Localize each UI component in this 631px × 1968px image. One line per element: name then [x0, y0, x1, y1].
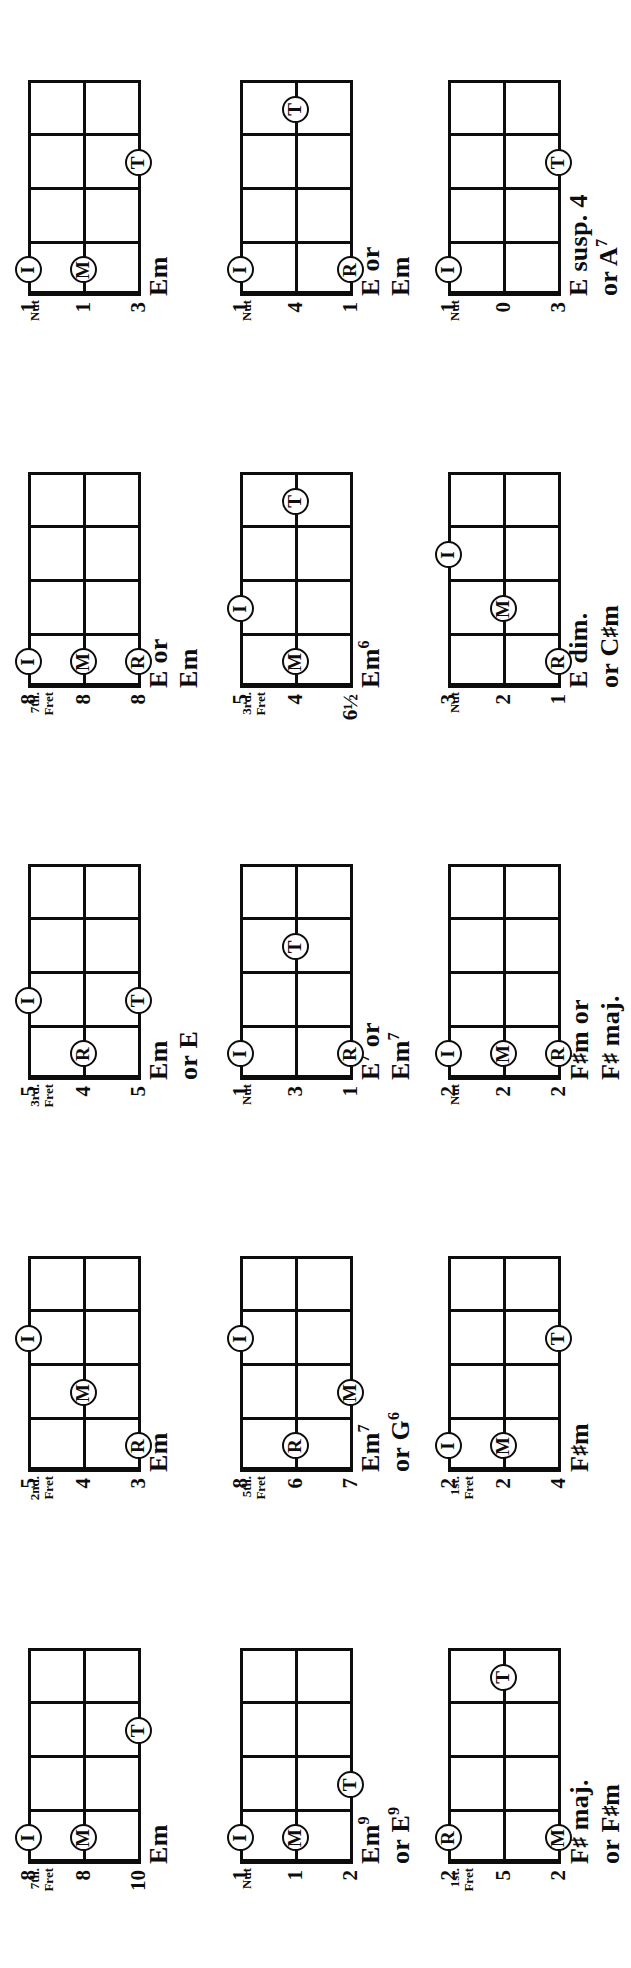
- chord-name-line: or G6: [386, 1240, 416, 1472]
- finger-marker-i: I: [435, 1041, 462, 1068]
- string-number-1: 2: [438, 1478, 458, 1512]
- string-line-1: [240, 472, 243, 688]
- finger-marker-m: M: [545, 1825, 572, 1852]
- position-label-line: Fret: [42, 692, 56, 766]
- finger-marker-t: T: [125, 1718, 152, 1745]
- finger-marker-t: T: [545, 1326, 572, 1353]
- string-number-1: 2: [438, 1086, 458, 1120]
- chord-diagram-e-dim-or-csharpm: NutIMR321E dim.or C♯m: [430, 454, 626, 784]
- chord-diagram-em9-or-e9: NutIMT112Em9or E9: [222, 1630, 418, 1960]
- fretboard-grid: [448, 472, 561, 688]
- string-line-1: [240, 1256, 243, 1472]
- fretboard-grid: [240, 864, 353, 1080]
- chord-diagram-e-or-em-nut: NutIRT141E orEm: [222, 62, 418, 392]
- chord-name: Em7or G6: [356, 1240, 416, 1472]
- string-number-2: 8: [73, 1870, 93, 1904]
- position-label-line: Fret: [462, 1868, 476, 1942]
- finger-marker-t: T: [282, 934, 309, 961]
- finger-marker-i: I: [435, 542, 462, 569]
- string-number-1: 5: [18, 1086, 38, 1120]
- string-number-1: 1: [18, 302, 38, 336]
- string-line-3: [138, 1648, 141, 1864]
- string-number-1: 1: [230, 1870, 250, 1904]
- chord-diagram-em7-or-g6: 5th.FretIRM867Em7or G6: [222, 1238, 418, 1568]
- chord-name-line: or C♯m: [594, 456, 625, 688]
- string-number-2: 2: [493, 1478, 513, 1512]
- finger-marker-i: I: [435, 1433, 462, 1460]
- chord-diagram-fsharpm-or-fsharp-maj: NutIMR222F♯m orF♯ maj.: [430, 846, 626, 1176]
- string-line-3: [558, 1256, 561, 1472]
- string-number-3: 8: [128, 694, 148, 728]
- string-number-2: 0: [493, 302, 513, 336]
- chord-name: Em6: [356, 456, 386, 688]
- string-number-3: 3: [128, 1478, 148, 1512]
- chord-name-line: E susp. 4: [564, 64, 594, 296]
- string-line-3: [350, 1256, 353, 1472]
- string-number-3: 2: [548, 1086, 568, 1120]
- string-line-3: [350, 1648, 353, 1864]
- string-number-3: 4: [548, 1478, 568, 1512]
- finger-marker-m: M: [70, 257, 97, 284]
- position-label-line: Fret: [42, 1868, 56, 1942]
- chord-name: E orEm: [144, 456, 204, 688]
- rotated-page-canvas: 7th.FretIMT8810Em2nd.FretIMR543Em3rd.Fre…: [0, 0, 631, 1968]
- finger-marker-m: M: [282, 649, 309, 676]
- string-number-1: 8: [18, 694, 38, 728]
- chord-name: E7 orEm7: [356, 848, 416, 1080]
- finger-marker-r: R: [337, 257, 364, 284]
- string-number-3: 1: [548, 694, 568, 728]
- finger-marker-r: R: [282, 1433, 309, 1460]
- string-line-3: [138, 864, 141, 1080]
- chord-name: F♯m: [564, 1240, 595, 1472]
- finger-marker-m: M: [70, 649, 97, 676]
- position-label-line: Fret: [42, 1476, 56, 1550]
- string-number-2: 6: [285, 1478, 305, 1512]
- finger-marker-t: T: [282, 96, 309, 123]
- string-number-2: 4: [73, 1478, 93, 1512]
- finger-marker-i: I: [227, 1041, 254, 1068]
- string-line-2: [503, 80, 506, 296]
- finger-marker-m: M: [70, 1380, 97, 1407]
- finger-marker-t: T: [125, 150, 152, 177]
- string-line-2: [295, 864, 298, 1080]
- string-number-1: 8: [18, 1870, 38, 1904]
- finger-marker-r: R: [435, 1825, 462, 1852]
- string-number-3: 2: [340, 1870, 360, 1904]
- chord-name-line: Em9: [356, 1632, 386, 1864]
- chord-diagram-em-2nd: 2nd.FretIMR543Em: [10, 1238, 206, 1568]
- finger-marker-i: I: [227, 257, 254, 284]
- chord-name-line: or F♯m: [595, 1632, 626, 1864]
- string-number-3: 10: [128, 1870, 148, 1904]
- finger-marker-m: M: [490, 1433, 517, 1460]
- finger-marker-t: T: [125, 988, 152, 1015]
- finger-marker-m: M: [70, 1825, 97, 1852]
- chord-name: Em9or E9: [356, 1632, 416, 1864]
- string-number-1: 1: [230, 1086, 250, 1120]
- chord-name: Em: [144, 64, 174, 296]
- finger-marker-t: T: [337, 1772, 364, 1799]
- string-number-2: 8: [73, 694, 93, 728]
- finger-marker-i: I: [227, 1326, 254, 1353]
- finger-marker-r: R: [125, 649, 152, 676]
- string-number-1: 8: [230, 1478, 250, 1512]
- chord-name-line: Em: [386, 64, 416, 296]
- chord-diagram-em6: 3rd.FretIMT546½Em6: [222, 454, 418, 784]
- string-line-2: [83, 1256, 86, 1472]
- finger-marker-i: I: [15, 988, 42, 1015]
- chord-name-line: F♯ maj.: [595, 848, 626, 1080]
- chord-diagram-em-nut: NutIMT113Em: [10, 62, 206, 392]
- finger-marker-t: T: [545, 150, 572, 177]
- string-number-1: 5: [230, 694, 250, 728]
- chord-name: F♯m orF♯ maj.: [564, 848, 627, 1080]
- chord-name-line: F♯m: [564, 1240, 595, 1472]
- chord-name-line: Em7: [356, 1240, 386, 1472]
- position-label-line: Fret: [42, 1084, 56, 1158]
- string-number-3: 6½: [340, 694, 360, 728]
- string-line-3: [558, 80, 561, 296]
- string-line-1: [448, 472, 451, 688]
- chord-name-line: Em: [144, 64, 174, 296]
- string-number-3: 5: [128, 1086, 148, 1120]
- string-line-3: [138, 80, 141, 296]
- chord-name: F♯ maj.or F♯m: [564, 1632, 627, 1864]
- string-number-2: 2: [493, 1086, 513, 1120]
